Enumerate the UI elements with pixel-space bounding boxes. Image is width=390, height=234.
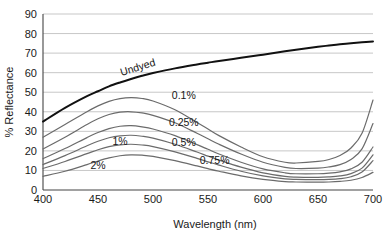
series-annotation-2: 2% <box>90 159 105 171</box>
series-annotation-075: 0.75% <box>200 154 230 166</box>
x-tick-label-500: 500 <box>144 193 162 205</box>
series-annotation-025: 0.25% <box>169 116 199 128</box>
x-tick-label-700: 700 <box>364 193 382 205</box>
series-annotation-05: 0.5% <box>172 136 196 148</box>
x-tick-label-450: 450 <box>89 193 107 205</box>
y-tick-label-60: 60 <box>25 67 37 79</box>
x-tick-label-650: 650 <box>309 193 327 205</box>
x-tick-labels-group: 400450500550600650700 <box>34 193 382 205</box>
y-tick-label-80: 80 <box>25 28 37 40</box>
y-tick-label-10: 10 <box>25 164 37 176</box>
y-tick-label-40: 40 <box>25 106 37 118</box>
gridlines-group <box>43 14 373 170</box>
reflectance-spectrum-chart: 400450500550600650700 010203040506070809… <box>0 0 390 234</box>
series-annotation-01: 0.1% <box>172 89 196 101</box>
y-tick-labels-group: 0102030405060708090 <box>25 8 37 196</box>
y-tick-label-20: 20 <box>25 145 37 157</box>
x-tick-label-550: 550 <box>199 193 217 205</box>
chart-screenshot: 400450500550600650700 010203040506070809… <box>0 0 390 234</box>
series-annotation-undyed: Undyed <box>118 56 156 78</box>
y-tick-label-90: 90 <box>25 8 37 20</box>
x-tick-label-600: 600 <box>254 193 272 205</box>
series-annotation-1: 1% <box>112 135 127 147</box>
y-tick-label-50: 50 <box>25 86 37 98</box>
y-tick-label-30: 30 <box>25 125 37 137</box>
y-tick-label-0: 0 <box>31 184 37 196</box>
x-axis-title: Wavelength (nm) <box>173 218 256 230</box>
y-tick-label-70: 70 <box>25 47 37 59</box>
y-axis-title: % Reflectance <box>3 67 15 138</box>
